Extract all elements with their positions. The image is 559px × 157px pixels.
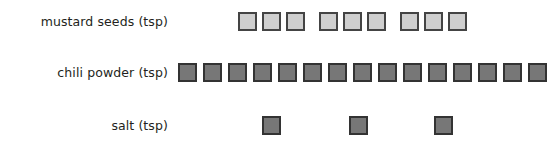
chart-row-salt: salt (tsp) <box>0 111 559 141</box>
chart-icon-square <box>343 12 362 31</box>
chart-row-mustard-seeds: mustard seeds (tsp) <box>0 7 559 37</box>
chart-icon-square <box>328 63 347 82</box>
chart-icon-square <box>253 63 272 82</box>
chart-icon-square <box>448 12 467 31</box>
row-label-chili-powder: chili powder (tsp) <box>57 58 168 88</box>
chart-icon-square <box>228 63 247 82</box>
chart-row-chili-powder: chili powder (tsp) <box>0 58 559 88</box>
chart-icon-square <box>286 12 305 31</box>
chart-icon-square <box>400 12 419 31</box>
chart-icon-square <box>319 12 338 31</box>
chart-icon-square <box>349 116 368 135</box>
chart-icon-square <box>367 12 386 31</box>
chart-icon-square <box>403 63 422 82</box>
chart-icon-square <box>303 63 322 82</box>
chart-icon-square <box>262 12 281 31</box>
chart-icon-square <box>203 63 222 82</box>
chart-icon-square <box>453 63 472 82</box>
chart-icon-square <box>178 63 197 82</box>
chart-icon-square <box>434 116 453 135</box>
chart-icon-square <box>262 116 281 135</box>
chart-icon-square <box>428 63 447 82</box>
chart-icon-square <box>353 63 372 82</box>
chart-icon-square <box>528 63 547 82</box>
row-label-salt: salt (tsp) <box>111 111 168 141</box>
chart-icon-square <box>424 12 443 31</box>
row-label-mustard-seeds: mustard seeds (tsp) <box>41 7 168 37</box>
chart-icon-square <box>378 63 397 82</box>
chart-icon-square <box>278 63 297 82</box>
chart-icon-square <box>238 12 257 31</box>
chart-icon-square <box>503 63 522 82</box>
chart-icon-square <box>478 63 497 82</box>
pictogram-chart: mustard seeds (tsp) chili powder (tsp) s… <box>0 0 559 157</box>
